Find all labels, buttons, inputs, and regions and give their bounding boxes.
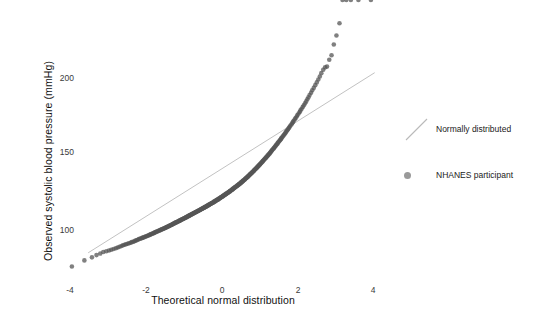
data-point: [329, 53, 334, 58]
y-tick-label-200: 200: [44, 73, 74, 83]
x-tick-label-neg2: -2: [131, 285, 161, 295]
data-point: [327, 57, 332, 62]
y-tick-label-150: 150: [44, 147, 74, 157]
legend-line-swatch: [404, 117, 430, 143]
y-tick-label-100: 100: [44, 225, 74, 235]
data-point: [356, 0, 361, 2]
data-point: [325, 64, 330, 69]
legend-label-normally-distributed: Normally distributed: [436, 124, 511, 134]
x-tick-label-4: 4: [358, 285, 388, 295]
data-point: [70, 264, 75, 269]
data-point: [349, 0, 354, 2]
x-tick-label-0: 0: [207, 285, 237, 295]
qq-plot-figure: Observed systolic blood pressure (mmHg) …: [0, 0, 533, 334]
data-points-group: [70, 0, 374, 269]
data-point: [332, 42, 337, 47]
y-axis-title: Observed systolic blood pressure (mmHg): [42, 21, 54, 301]
legend-label-nhanes-participant: NHANES participant: [436, 170, 513, 180]
data-point: [334, 33, 339, 38]
data-point: [369, 0, 374, 2]
reference-line: [88, 73, 375, 253]
x-tick-label-neg4: -4: [55, 285, 85, 295]
data-point: [344, 0, 349, 2]
reference-line-segment: [88, 73, 375, 253]
data-point: [337, 21, 342, 26]
data-point: [82, 258, 87, 263]
legend-point-swatch: [404, 172, 411, 179]
x-tick-label-2: 2: [283, 285, 313, 295]
data-point: [90, 255, 95, 260]
x-axis-title: Theoretical normal distribution: [120, 294, 326, 306]
plot-area: [0, 0, 533, 334]
